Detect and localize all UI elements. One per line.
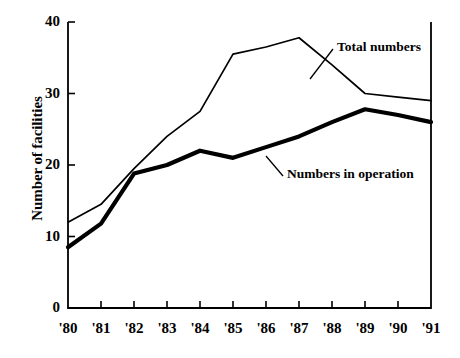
annotation-total-numbers: Total numbers	[337, 40, 421, 54]
x-tick-label: '82	[117, 321, 151, 336]
x-tick-label: '91	[414, 321, 448, 336]
x-tick-label: '85	[216, 321, 250, 336]
x-tick-label: '84	[183, 321, 217, 336]
x-tick-label: '83	[150, 321, 184, 336]
y-tick-label: 0	[26, 300, 60, 315]
x-tick-label: '86	[249, 321, 283, 336]
x-tick-label: '88	[315, 321, 349, 336]
annotation-numbers-in-operation: Numbers in operation	[287, 167, 414, 181]
y-tick-label: 10	[26, 229, 60, 244]
chart-figure: Number of facilities 010203040 '80'81'82…	[0, 0, 460, 358]
x-tick-label: '89	[348, 321, 382, 336]
y-tick-label: 30	[26, 86, 60, 101]
x-tick-label: '90	[381, 321, 415, 336]
x-tick-label: '81	[84, 321, 118, 336]
x-tick-label: '80	[51, 321, 85, 336]
x-tick-label: '87	[282, 321, 316, 336]
y-tick-label: 40	[26, 14, 60, 29]
y-tick-label: 20	[26, 157, 60, 172]
